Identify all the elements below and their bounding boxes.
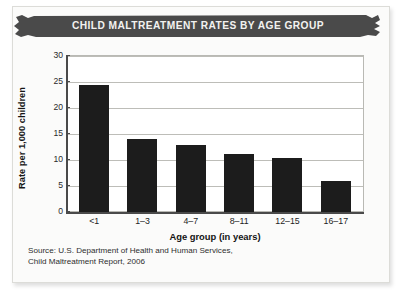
x-tick-label-4-7: 4–7 (170, 216, 212, 230)
y-tick-label-30: 30 (43, 50, 63, 60)
y-tickmark-5 (66, 185, 70, 186)
y-tick-label-5: 5 (43, 180, 63, 190)
bar-age-1-3 (127, 139, 157, 212)
y-tick-label-25: 25 (43, 76, 63, 86)
scanned-page: CHILD MALTREATMENT RATES BY AGE GROUP 30… (0, 0, 411, 297)
title-banner: CHILD MALTREATMENT RATES BY AGE GROUP (14, 14, 382, 38)
y-axis-title: Rate per 1,000 children (17, 77, 27, 199)
y-tickmark-0 (66, 211, 70, 212)
bar-age-12-15 (272, 158, 302, 212)
bar-age-4-7 (176, 145, 206, 212)
x-tick-label-under-1: <1 (73, 216, 115, 230)
y-tick-label-0: 0 (43, 206, 63, 216)
x-tick-label-8-11: 8–11 (218, 216, 260, 230)
bar-age-under-1 (79, 85, 109, 212)
y-tickmark-10 (66, 159, 70, 160)
x-axis-title: Age group (in years) (66, 231, 364, 242)
y-tickmark-15 (66, 133, 70, 134)
y-tickmark-30 (66, 55, 70, 56)
bar-age-8-11 (224, 154, 254, 212)
y-axis-line (66, 55, 68, 214)
bar-age-16-17 (321, 181, 351, 212)
y-tickmark-20 (66, 107, 70, 108)
x-axis-ticks: <1 1–3 4–7 8–11 12–15 16–17 (66, 216, 364, 230)
y-tick-label-20: 20 (43, 102, 63, 112)
y-tick-label-15: 15 (43, 128, 63, 138)
y-axis-ticks: 30 25 20 15 10 5 0 (40, 55, 63, 212)
chart-title: CHILD MALTREATMENT RATES BY AGE GROUP (14, 14, 382, 38)
y-tick-label-10: 10 (43, 154, 63, 164)
y-tickmark-25 (66, 81, 70, 82)
x-tick-label-12-15: 12–15 (266, 216, 308, 230)
source-line-2: Child Maltreatment Report, 2006 (28, 257, 348, 268)
bar-series (66, 55, 364, 212)
source-line-1: Source: U.S. Department of Health and Hu… (28, 246, 348, 257)
x-tick-label-1-3: 1–3 (121, 216, 163, 230)
x-axis-line (66, 212, 364, 214)
x-tick-label-16-17: 16–17 (315, 216, 357, 230)
source-note: Source: U.S. Department of Health and Hu… (28, 246, 348, 267)
